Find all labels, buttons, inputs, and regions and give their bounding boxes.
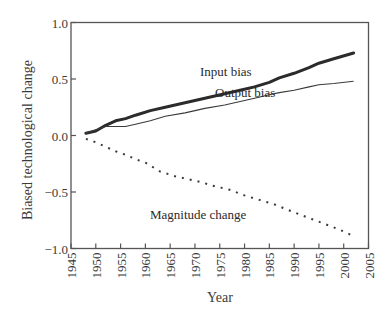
x-tick-label: 1945 <box>64 253 79 279</box>
y-tick-label: −0.5 <box>44 185 68 200</box>
x-tick-label: 1960 <box>138 253 153 279</box>
line-chart: 1.00.50.0−0.5−1.0 1945195019551960196519… <box>0 0 391 312</box>
input-bias-label: Input bias <box>200 64 252 79</box>
output-bias-label: Output bias <box>215 85 275 100</box>
x-tick-label: 1975 <box>213 253 228 279</box>
y-tick-label: 1.0 <box>52 16 68 31</box>
y-tick-label: 0.5 <box>52 72 68 87</box>
y-axis-title: Biased technological change <box>20 60 35 220</box>
x-axis-title: Year <box>207 290 233 305</box>
x-tick-label: 2005 <box>362 253 377 279</box>
x-tick-label: 1965 <box>163 253 178 279</box>
x-tick-label: 1990 <box>287 253 302 279</box>
x-tick-label: 1985 <box>262 253 277 279</box>
x-tick-label: 1970 <box>188 253 203 279</box>
magnitude-change-label: Magnitude change <box>150 207 247 222</box>
x-tick-label: 1980 <box>238 253 253 279</box>
y-tick-label: 0.0 <box>52 129 68 144</box>
x-tick-label: 1950 <box>89 253 104 279</box>
x-tick-label: 1955 <box>114 253 129 279</box>
x-tick-label: 2000 <box>337 253 352 279</box>
x-tick-label: 1995 <box>312 253 327 279</box>
